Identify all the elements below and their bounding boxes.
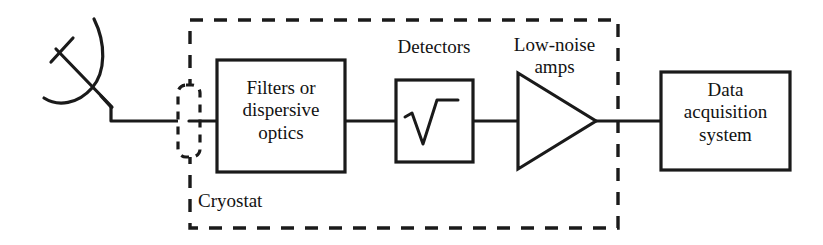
detectors-block [396, 80, 473, 162]
diagram-canvas [0, 0, 823, 245]
amplifier-triangle-icon [518, 73, 596, 169]
filters-block [217, 60, 345, 172]
antenna-downlead-segment [101, 96, 111, 107]
feed-horn-icon [51, 38, 73, 62]
data-acquisition-block [661, 72, 790, 170]
block-diagram: Filters or dispersive optics Detectors L… [0, 0, 823, 245]
